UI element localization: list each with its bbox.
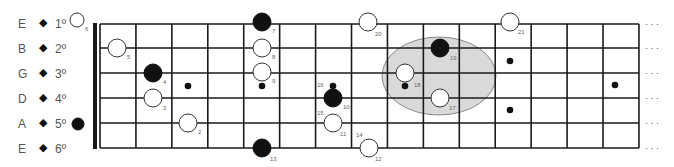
note-label: 20 — [375, 31, 382, 37]
open-note-icon — [396, 64, 414, 82]
open-note-icon — [431, 89, 449, 107]
nut-bar — [93, 23, 97, 149]
filled-note-icon — [144, 64, 162, 82]
note-label: 19 — [450, 55, 457, 61]
small-dot-icon — [330, 83, 337, 90]
open-note-icon — [359, 13, 377, 31]
note-label: 9 — [272, 78, 276, 84]
continuation-ellipsis: · · · — [645, 43, 659, 53]
note-label: 6 — [85, 26, 89, 32]
open-note-icon — [70, 13, 84, 27]
open-note-icon — [324, 114, 342, 132]
position-label: 14 — [356, 132, 363, 138]
open-note-icon — [144, 89, 162, 107]
note-label: 3 — [163, 105, 167, 111]
nut — [93, 23, 97, 149]
continuation-ellipsis: · · · — [645, 68, 659, 78]
filled-note-icon — [72, 118, 84, 130]
open-note-icon — [108, 39, 126, 57]
continuation-ellipsis: · · · — [645, 118, 659, 128]
note-label: 17 — [449, 105, 456, 111]
position-label: 15 — [317, 110, 324, 116]
note-label: 12 — [375, 156, 382, 162]
continuation-ellipsis: · · · — [645, 143, 659, 153]
note-label: 4 — [163, 79, 167, 85]
filled-note-icon — [253, 13, 271, 31]
continuation-ellipsis: · · · — [645, 19, 659, 29]
note-label: 21 — [518, 29, 525, 35]
filled-note-icon — [431, 39, 449, 57]
small-dot-icon — [259, 83, 266, 90]
note-label: 18 — [414, 82, 421, 88]
filled-note-icon — [324, 89, 342, 107]
open-note-icon — [179, 114, 197, 132]
small-dot-icon — [507, 107, 514, 114]
note-label: 5 — [127, 54, 131, 60]
small-dot-icon — [507, 58, 514, 65]
small-dot-icon — [612, 82, 619, 89]
dot-label: 16 — [317, 82, 324, 88]
open-note-icon — [501, 13, 519, 31]
filled-note-icon — [253, 139, 271, 157]
note-label: 10 — [343, 104, 350, 110]
small-dot-icon — [185, 83, 192, 90]
continuation-ellipsis: · · · — [645, 93, 659, 103]
fret-grid — [100, 24, 639, 148]
note-label: 11 — [340, 131, 347, 137]
note-label: 2 — [198, 129, 202, 135]
note-label: 8 — [272, 54, 276, 60]
open-note-icon — [253, 63, 271, 81]
note-label: 7 — [272, 28, 276, 34]
open-note-icon — [253, 39, 271, 57]
continuation-markers: · · ·· · ·· · ·· · ·· · ·· · · — [645, 19, 659, 153]
fretboard: 161514 65432789101112131718192021 · · ··… — [0, 0, 674, 167]
note-label: 13 — [270, 156, 277, 162]
small-dot-icon — [402, 83, 409, 90]
open-note-icon — [360, 139, 378, 157]
